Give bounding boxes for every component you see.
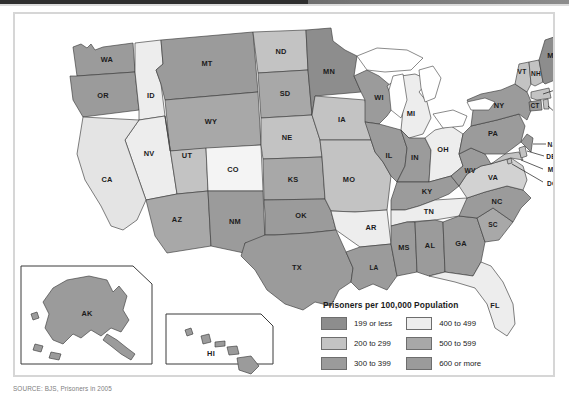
legend-item[interactable]: 500 to 599 — [406, 337, 481, 350]
alaska-inset: AK — [21, 266, 152, 364]
legend-label: 300 to 399 — [354, 359, 391, 368]
label-NV: NV — [144, 149, 155, 158]
label-IL: IL — [386, 151, 393, 160]
legend-swatch — [406, 357, 432, 370]
label-GA: GA — [455, 239, 467, 248]
label-CO: CO — [227, 165, 239, 174]
label-AZ: AZ — [172, 215, 183, 224]
legend-label: 500 to 599 — [439, 339, 476, 348]
legend-swatch — [406, 337, 432, 350]
leader-MD — [521, 160, 543, 169]
label-MT: MT — [201, 59, 212, 68]
title-bar-shadow — [0, 4, 569, 6]
label-NC: NC — [491, 197, 503, 206]
label-UT: UT — [182, 151, 193, 160]
leader-DE — [527, 151, 544, 156]
legend-swatch — [321, 357, 347, 370]
legend-swatch — [321, 317, 347, 330]
label-OR: OR — [97, 91, 109, 100]
state-RI[interactable] — [543, 99, 549, 109]
hawaii-island-maui — [227, 346, 239, 355]
label-TN: TN — [424, 207, 434, 216]
label-WY: WY — [205, 117, 217, 126]
label-CT: CT — [530, 102, 539, 109]
label-SD: SD — [280, 89, 291, 98]
hawaii-island-molokai — [215, 341, 225, 347]
label-SC: SC — [488, 221, 498, 228]
label-PA: PA — [488, 129, 499, 138]
label-MI: MI — [407, 109, 416, 118]
label-CA: CA — [101, 175, 113, 184]
label-WV: WV — [464, 167, 475, 174]
legend-swatch — [321, 337, 347, 350]
label-WA: WA — [101, 55, 114, 64]
label-HI: HI — [207, 349, 215, 358]
label-MO: MO — [343, 175, 355, 184]
label-VA: VA — [488, 173, 499, 182]
label-TX: TX — [292, 263, 302, 272]
legend-swatch — [406, 317, 432, 330]
label-OK: OK — [295, 211, 307, 220]
label-NM: NM — [229, 217, 241, 226]
label-WI: WI — [374, 93, 383, 102]
legend-item[interactable]: 400 to 499 — [406, 317, 481, 330]
legend-column-left: 199 or less 200 to 299 300 to 399 — [321, 317, 392, 370]
hawaii-island-oahu — [201, 334, 211, 344]
label-ME: ME — [547, 51, 553, 60]
legend-item[interactable]: 600 or more — [406, 357, 481, 370]
legend-column-right: 400 to 499 500 to 599 600 or more — [406, 317, 481, 370]
label-DE: DE — [546, 153, 553, 160]
legend-title: Prisoners per 100,000 Population — [323, 300, 507, 310]
label-AR: AR — [365, 223, 377, 232]
legend-item[interactable]: 200 to 299 — [321, 337, 392, 350]
legend-label: 400 to 499 — [439, 319, 476, 328]
label-NH: NH — [531, 70, 541, 77]
lake-superior — [357, 48, 423, 72]
label-MN: MN — [323, 67, 335, 76]
label-LA: LA — [369, 264, 378, 271]
label-AK: AK — [81, 309, 93, 318]
label-IN: IN — [411, 153, 419, 162]
label-KY: KY — [422, 187, 433, 196]
label-OH: OH — [437, 145, 449, 154]
label-DC: DC — [547, 180, 553, 187]
label-IA: IA — [338, 115, 346, 124]
label-KS: KS — [288, 175, 299, 184]
label-ID: ID — [147, 91, 155, 100]
label-NJ: NJ — [548, 141, 553, 148]
label-MS: MS — [398, 243, 410, 252]
legend-item[interactable]: 199 or less — [321, 317, 392, 330]
legend-label: 199 or less — [354, 319, 392, 328]
legend-label: 600 or more — [439, 359, 481, 368]
lake-erie — [433, 110, 467, 128]
hawaii-inset-box — [166, 314, 273, 364]
state-MA[interactable] — [531, 88, 551, 100]
label-NE: NE — [282, 133, 293, 142]
map-legend: Prisoners per 100,000 Population 199 or … — [321, 300, 507, 378]
legend-label: 200 to 299 — [354, 339, 391, 348]
source-note: SOURCE: BJS, Prisoners in 2005 — [13, 385, 413, 394]
label-ND: ND — [275, 47, 287, 56]
label-MD: MD — [548, 166, 553, 173]
label-NY: NY — [494, 101, 505, 110]
hawaii-inset: HI — [166, 314, 273, 374]
label-VT: VT — [518, 68, 527, 75]
label-AL: AL — [425, 241, 436, 250]
legend-item[interactable]: 300 to 399 — [321, 357, 392, 370]
